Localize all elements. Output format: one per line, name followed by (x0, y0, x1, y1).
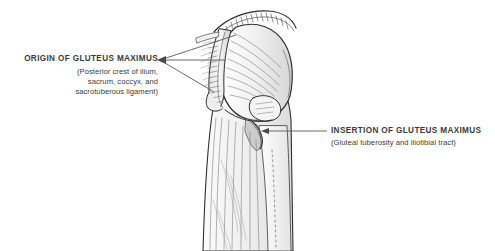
origin-subtitle-line-2: sacrum, coccyx, and (8, 77, 158, 87)
insertion-label-title: INSERTION OF GLUTEUS MAXIMUS (331, 125, 491, 136)
origin-subtitle-line-1: (Posterior crest of ilium, (8, 67, 158, 77)
greater-trochanter (249, 96, 281, 122)
origin-label-block: ORIGIN OF GLUTEUS MAXIMUS (Posterior cre… (8, 53, 158, 98)
origin-subtitle-line-3: sacrotuberous ligament) (8, 87, 158, 97)
origin-label-subtitle: (Posterior crest of ilium, sacrum, coccy… (8, 67, 158, 98)
insertion-label-block: INSERTION OF GLUTEUS MAXIMUS (Gluteal tu… (331, 125, 491, 148)
origin-label-title: ORIGIN OF GLUTEUS MAXIMUS (8, 53, 158, 64)
origin-leader-lower (160, 60, 214, 92)
anatomy-figure-page: ORIGIN OF GLUTEUS MAXIMUS (Posterior cre… (0, 0, 495, 251)
insertion-label-subtitle: (Gluteal tuberosity and iliotibial tract… (331, 138, 491, 148)
insertion-subtitle-line-1: (Gluteal tuberosity and iliotibial tract… (331, 138, 491, 148)
origin-arrowhead (157, 56, 166, 64)
